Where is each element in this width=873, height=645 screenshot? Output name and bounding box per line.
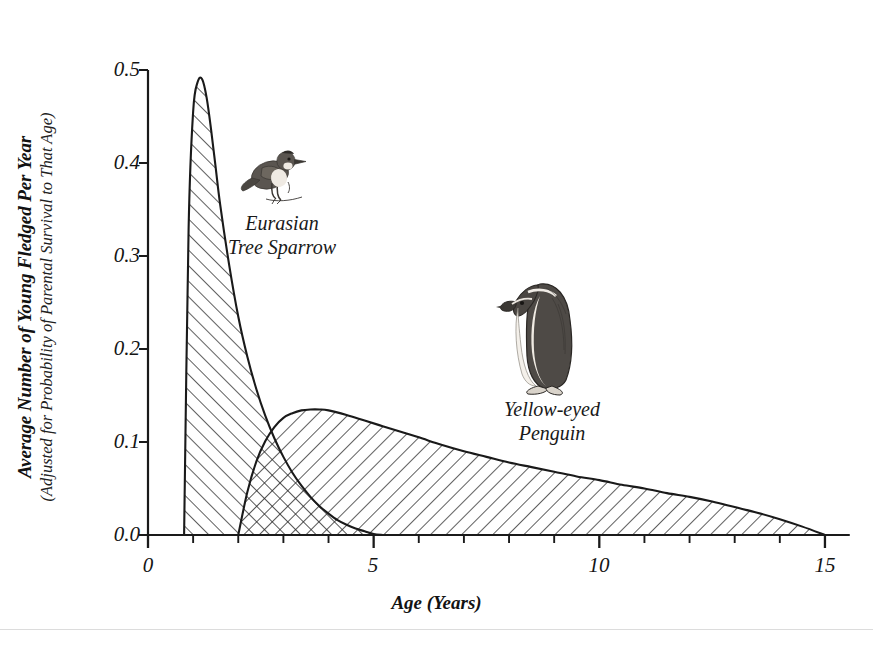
figure-canvas: (Adjusted for Probability of Parental Su… bbox=[0, 0, 873, 645]
standing-penguin-illustration bbox=[494, 268, 590, 396]
page-rule-divider bbox=[0, 629, 873, 630]
perched-sparrow-illustration bbox=[236, 142, 314, 212]
series-label-sparrow-line1: Eurasian bbox=[192, 212, 372, 236]
series-label-penguin: Yellow-eyed Penguin bbox=[462, 398, 642, 445]
plot-area bbox=[0, 0, 873, 645]
series-label-sparrow: Eurasian Tree Sparrow bbox=[192, 212, 372, 259]
series-label-penguin-line2: Penguin bbox=[462, 422, 642, 446]
series-label-sparrow-line2: Tree Sparrow bbox=[192, 236, 372, 260]
series-label-penguin-line1: Yellow-eyed bbox=[462, 398, 642, 422]
